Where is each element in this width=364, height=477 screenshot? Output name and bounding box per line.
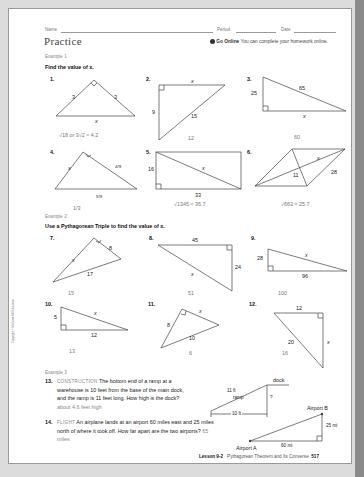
problem-13-number: 13. <box>45 378 53 384</box>
problem-2-answer: 12 <box>188 135 194 141</box>
problem-7-answer: 15 <box>68 290 74 296</box>
problem-8-label-x: x <box>191 271 194 277</box>
problem-1-label-b: 3 <box>114 94 117 100</box>
problem-2-number: 2. <box>146 76 151 82</box>
problem-6-label-11: 11 <box>293 172 299 178</box>
problem-3-answer: 60 <box>294 134 300 140</box>
problem-2-label-x: x <box>191 78 194 84</box>
problem-14-body: An airplane lands at an airport 60 miles… <box>57 419 214 434</box>
problem-11-label-10: 10 <box>189 335 195 341</box>
airport-a-label: Airport A <box>236 445 257 451</box>
problem-8-answer: 51 <box>188 290 194 296</box>
problem-11-answer: 6 <box>189 350 192 356</box>
problem-13-text: CONSTRUCTION The bottom end of a ramp at… <box>57 377 187 411</box>
airport-east-label: 60 mi <box>281 443 292 448</box>
ramp-label-dock: dock <box>273 377 284 383</box>
problem-14-text: FLIGHT An airplane lands at an airport 6… <box>57 418 222 444</box>
problem-4-label-5-9: 5/9 <box>96 194 102 199</box>
problem-5-label-x: x <box>202 165 205 171</box>
problem-12-number: 12. <box>249 301 257 307</box>
problem-9-answer: 100 <box>278 290 287 296</box>
problem-7-label-8: 8 <box>109 245 112 251</box>
problem-11-label-x: x <box>199 308 202 314</box>
period-line <box>236 32 276 33</box>
problem-11-label-8: 8 <box>167 322 170 328</box>
date-label: Date <box>281 27 291 32</box>
problem-5-label-33: 33 <box>195 192 201 198</box>
problem-11-number: 11. <box>148 301 155 307</box>
problem-9-label-96: 96 <box>302 273 308 279</box>
problem-6-answer: √663 ≈ 25.7 <box>281 201 309 207</box>
problem-5-number: 5. <box>146 149 151 155</box>
problem-4-answer: 1/3 <box>73 205 81 211</box>
problem-1-label-a: 3 <box>72 94 75 100</box>
ramp-label-length: 11 ft <box>227 388 236 393</box>
problem-4-label-x: x <box>68 165 71 171</box>
footer-title: · Pythagorean Theorem and Its Converse <box>224 454 308 459</box>
ramp-label-base: 10 ft <box>231 411 242 416</box>
problem-10-answer: 13 <box>69 348 75 354</box>
problem-10-label-x: x <box>94 310 97 316</box>
page-footer: Lesson 9-2 · Pythagorean Theorem and Its… <box>199 454 319 459</box>
problem-10-label-12: 12 <box>91 332 97 338</box>
copyright-notice: Copyright © McGraw-Hill Education <box>11 299 15 343</box>
name-label: Name <box>45 27 57 32</box>
problem-7-label-x: x <box>72 257 75 263</box>
date-line <box>294 32 336 33</box>
problem-3-number: 3. <box>247 76 252 82</box>
problem-9-label-x: x <box>305 252 308 258</box>
ramp-label-ramp: ramp <box>233 395 243 400</box>
problem-14-category: FLIGHT <box>57 420 75 425</box>
problem-3-label-65: 65 <box>299 85 305 91</box>
problem-6-number: 6. <box>247 149 252 155</box>
problem-10-label-5: 5 <box>54 314 57 320</box>
problem-8-label-24: 24 <box>235 264 241 270</box>
airport-diagram <box>9 9 10 10</box>
example3-label: Example 3 <box>45 370 67 375</box>
problem-2-label-9: 9 <box>152 109 155 115</box>
problem-12-label-20: 20 <box>288 339 294 345</box>
problem-4-label-4-9: 4/9 <box>115 164 121 169</box>
problem-1-label-x: x <box>95 118 98 124</box>
problem-12-label-x: x <box>327 339 330 345</box>
ramp-label-height: ? <box>270 395 273 400</box>
problem-8-label-45: 45 <box>192 237 198 243</box>
airport-b-label: Airport B <box>307 405 328 411</box>
problem-9-label-28: 28 <box>257 255 263 261</box>
problem-1-number: 1. <box>50 76 55 82</box>
problem-3-label-x: x <box>303 113 306 119</box>
problem-7-number: 7. <box>50 235 55 241</box>
problem-6-label-28: 28 <box>331 169 337 175</box>
problem-7-label-17: 17 <box>87 271 93 277</box>
go-online-note: Go Online You can complete your homework… <box>210 39 328 44</box>
problem-1-answer: √18 or 3√2 ≈ 4.2 <box>59 132 98 138</box>
example2-label: Example 2 <box>45 214 67 219</box>
problem-8-number: 8. <box>149 235 154 241</box>
problem-6-label-x: x <box>317 155 320 161</box>
go-online-text: You can complete your homework online. <box>241 39 329 44</box>
problem-5-answer: √1345 ≈ 36.7 <box>174 201 205 207</box>
problem-13-category: CONSTRUCTION <box>57 379 98 384</box>
go-online-label: Go Online <box>216 39 239 44</box>
name-line <box>61 32 213 33</box>
example1-instruction: Find the value of x. <box>45 64 94 70</box>
page-edge-band <box>355 0 364 477</box>
page-title: Practice <box>44 35 82 47</box>
problem-13-answer: about 4.6 feet high <box>57 404 102 410</box>
problem-10-number: 10. <box>45 301 53 307</box>
page-number: 517 <box>311 454 319 459</box>
problem-2-label-15: 15 <box>191 113 197 119</box>
globe-icon <box>210 39 215 44</box>
example1-label: Example 1 <box>45 54 67 59</box>
problem-12-answer: 16 <box>282 350 288 356</box>
problem-5-label-16: 16 <box>148 166 154 172</box>
problem-12-label-12: 12 <box>296 305 302 311</box>
example2-instruction: Use a Pythagorean Triple to find the val… <box>45 223 165 229</box>
problem-4-number: 4. <box>50 149 55 155</box>
worksheet-page: Name Period Date Practice Go Online You … <box>8 8 352 464</box>
problem-9-number: 9. <box>251 235 256 241</box>
airport-north-label: 25 mi <box>326 423 337 428</box>
period-label: Period <box>217 27 230 32</box>
footer-lesson: Lesson 9-2 <box>199 454 223 459</box>
problem-14-number: 14. <box>45 419 53 425</box>
